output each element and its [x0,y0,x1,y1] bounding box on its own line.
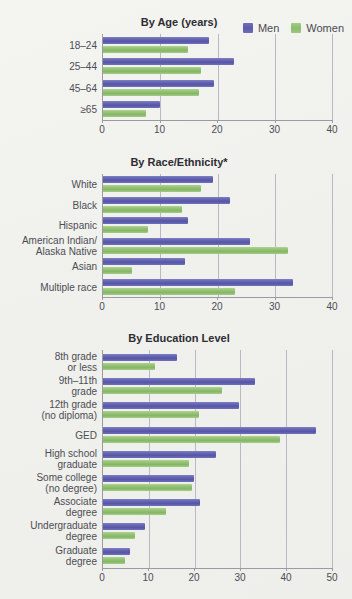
bar-women [103,363,155,370]
axis-tick-label: 20 [211,121,222,135]
bar-group: Graduate degree [103,544,332,568]
bar-group: 18–24 [103,34,332,56]
category-label: Hispanic [1,220,97,231]
bar-men [103,475,194,482]
bar-men [103,451,216,458]
bar-women [103,508,166,515]
bar-group: 25–44 [103,56,332,78]
bar-men [103,354,177,361]
axis-tick-label: 20 [211,298,222,312]
gridline [332,350,333,568]
bar-group: Undergraduate degree [103,519,332,543]
bar-women [103,484,192,491]
bar-group: ≥65 [103,99,332,121]
bar-group: American Indian/ Alaska Native [103,236,332,257]
bar-women [103,411,199,418]
bar-men [103,80,214,87]
bar-women [103,206,182,213]
category-label: Undergraduate degree [1,520,97,542]
bar-men [103,523,145,530]
chart-title: By Age (years) [0,16,352,28]
bar-group: 45–64 [103,77,332,99]
bar-women [103,387,222,394]
category-label: ≥65 [1,104,97,115]
axis-tick-label: 20 [188,569,199,583]
chart-by-race-ethnicity: By Race/Ethnicity* WhiteBlackHispanicAme… [0,156,352,316]
bar-group: Multiple race [103,277,332,298]
x-axis: 010203040 [102,120,332,139]
x-axis: 010203040 [102,297,332,316]
axis-tick-label: 50 [326,569,337,583]
bar-women [103,46,188,53]
category-label: Black [1,199,97,210]
bar-group: GED [103,423,332,447]
bars-container: 8th grade or less9th–11th grade12th grad… [102,350,332,568]
category-label: 8th grade or less [1,351,97,373]
chart-by-education-level: By Education Level 8th grade or less9th–… [0,332,352,587]
axis-tick-label: 0 [99,569,105,583]
bar-men [103,427,316,434]
bar-men [103,58,234,65]
axis-tick-label: 30 [269,121,280,135]
bar-men [103,101,160,108]
bar-women [103,436,280,443]
bar-group: Hispanic [103,215,332,236]
bar-men [103,402,239,409]
bar-men [103,378,255,385]
bar-men [103,176,213,183]
category-label: 45–64 [1,82,97,93]
bar-group: Associate degree [103,495,332,519]
category-label: Graduate degree [1,545,97,567]
axis-tick-label: 30 [234,569,245,583]
plot-area: 8th grade or less9th–11th grade12th grad… [0,350,352,587]
bar-group: High school graduate [103,447,332,471]
bar-group: Some college (no degree) [103,471,332,495]
category-label: Multiple race [1,281,97,292]
axis-tick-label: 0 [99,298,105,312]
gridline [332,174,333,297]
chart-title: By Race/Ethnicity* [0,156,352,168]
category-label: High school graduate [1,448,97,470]
bar-men [103,238,250,245]
category-label: 25–44 [1,61,97,72]
bar-group: Asian [103,256,332,277]
bar-men [103,258,185,265]
gridline [332,34,333,120]
bar-men [103,37,209,44]
axis-tick-label: 10 [142,569,153,583]
bar-group: 9th–11th grade [103,374,332,398]
bar-women [103,247,288,254]
bars-container: WhiteBlackHispanicAmerican Indian/ Alask… [102,174,332,297]
axis-tick-label: 40 [326,298,337,312]
bar-women [103,67,201,74]
axis-tick-label: 0 [99,121,105,135]
bar-men [103,217,188,224]
axis-tick-label: 10 [154,298,165,312]
bar-women [103,532,135,539]
bar-group: Black [103,195,332,216]
plot-area: 18–2425–4445–64≥65 010203040 [0,34,352,139]
chart-by-age: By Age (years) 18–2425–4445–64≥65 010203… [0,16,352,139]
bar-men [103,548,130,555]
category-label: 12th grade (no diploma) [1,399,97,421]
category-label: Asian [1,261,97,272]
chart-title: By Education Level [0,332,352,344]
bar-men [103,499,200,506]
bar-women [103,89,199,96]
bar-women [103,557,125,564]
category-label: White [1,179,97,190]
bar-group: White [103,174,332,195]
plot-area: WhiteBlackHispanicAmerican Indian/ Alask… [0,174,352,316]
axis-tick-label: 10 [154,121,165,135]
axis-tick-label: 40 [280,569,291,583]
category-label: 9th–11th grade [1,375,97,397]
bar-group: 12th grade (no diploma) [103,398,332,422]
category-label: Some college (no degree) [1,472,97,494]
category-label: GED [1,429,97,440]
bar-women [103,267,132,274]
bar-men [103,279,293,286]
bar-women [103,288,235,295]
bar-women [103,460,189,467]
bars-container: 18–2425–4445–64≥65 [102,34,332,120]
bar-women [103,226,148,233]
